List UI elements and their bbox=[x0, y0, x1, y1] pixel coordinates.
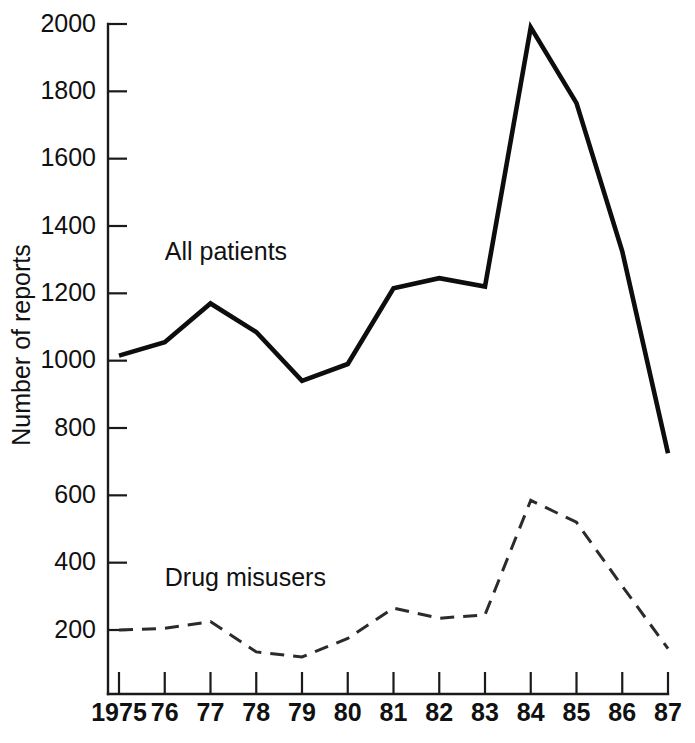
y-axis-tick-label: 1400 bbox=[40, 211, 96, 239]
x-axis-tick-label: 78 bbox=[242, 698, 270, 726]
x-axis-tick-label: 83 bbox=[471, 698, 499, 726]
x-axis-ticks bbox=[119, 672, 668, 694]
y-axis-tick-label: 1800 bbox=[40, 76, 96, 104]
y-axis: 200018001600140012001000800600400200 bbox=[40, 9, 127, 694]
x-axis-tick-label: 85 bbox=[563, 698, 591, 726]
x-axis-tick-label: 77 bbox=[197, 698, 225, 726]
y-axis-tick-label: 1200 bbox=[40, 278, 96, 306]
x-axis-tick-label: 81 bbox=[380, 698, 408, 726]
x-axis-tick-label: 87 bbox=[654, 698, 682, 726]
y-axis-tick-label: 1000 bbox=[40, 345, 96, 373]
x-axis-tick-label: 82 bbox=[425, 698, 453, 726]
line-chart: 200018001600140012001000800600400200 197… bbox=[0, 0, 695, 743]
y-axis-tick-label: 400 bbox=[54, 547, 96, 575]
x-axis: 1975767778798081828384858687 bbox=[91, 672, 682, 726]
y-axis-title: Number of reports bbox=[7, 244, 35, 445]
y-axis-tick-label: 2000 bbox=[40, 9, 96, 37]
y-axis-ticks bbox=[108, 24, 127, 630]
y-axis-tick-label: 800 bbox=[54, 413, 96, 441]
y-axis-tick-label: 200 bbox=[54, 615, 96, 643]
y-axis-tick-label: 1600 bbox=[40, 143, 96, 171]
series-all-patients-label: All patients bbox=[165, 237, 287, 265]
x-axis-tick-label: 84 bbox=[517, 698, 545, 726]
chart-container: 200018001600140012001000800600400200 197… bbox=[0, 0, 695, 743]
x-axis-tick-labels: 1975767778798081828384858687 bbox=[91, 698, 682, 726]
x-axis-tick-label: 80 bbox=[334, 698, 362, 726]
y-axis-tick-label: 600 bbox=[54, 480, 96, 508]
x-axis-tick-label: 79 bbox=[288, 698, 316, 726]
x-axis-tick-label: 1975 bbox=[91, 698, 147, 726]
x-axis-tick-label: 86 bbox=[608, 698, 636, 726]
y-axis-tick-labels: 200018001600140012001000800600400200 bbox=[40, 9, 96, 643]
x-axis-tick-label: 76 bbox=[151, 698, 179, 726]
series-drug-misusers-label: Drug misusers bbox=[165, 563, 326, 591]
